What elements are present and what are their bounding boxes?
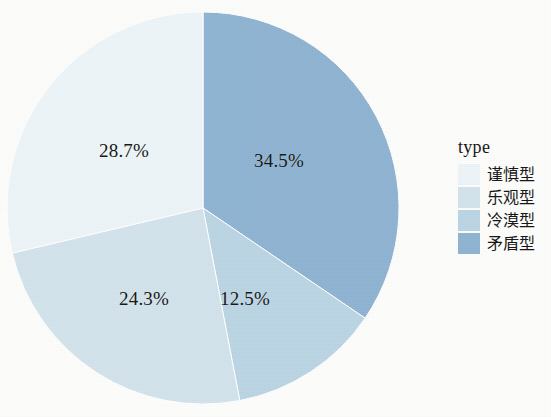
slice-label-12-5: 12.5% xyxy=(220,288,270,310)
slice-label-34-5: 34.5% xyxy=(254,150,304,172)
legend: type 谨慎型乐观型冷漠型矛盾型 xyxy=(458,138,551,255)
legend-item[interactable]: 乐观型 xyxy=(458,186,551,209)
legend-item-label: 谨慎型 xyxy=(487,167,535,183)
legend-item-label: 乐观型 xyxy=(487,190,535,206)
legend-item[interactable]: 谨慎型 xyxy=(458,163,551,186)
legend-item-list: 谨慎型乐观型冷漠型矛盾型 xyxy=(458,163,551,255)
legend-swatch xyxy=(458,233,480,254)
pie-chart-area: 34.5% 28.7% 24.3% 12.5% xyxy=(0,0,440,417)
legend-title: type xyxy=(458,138,551,156)
legend-item[interactable]: 矛盾型 xyxy=(458,232,551,255)
legend-swatch xyxy=(458,187,480,208)
pie-slice-group xyxy=(7,12,399,404)
legend-item-label: 矛盾型 xyxy=(487,236,535,252)
slice-label-24-3: 24.3% xyxy=(119,288,169,310)
legend-item-label: 冷漠型 xyxy=(487,213,535,229)
slice-label-28-7: 28.7% xyxy=(99,140,149,162)
legend-swatch xyxy=(458,210,480,231)
pie-chart-svg xyxy=(0,0,440,417)
legend-swatch xyxy=(458,164,480,185)
legend-item[interactable]: 冷漠型 xyxy=(458,209,551,232)
